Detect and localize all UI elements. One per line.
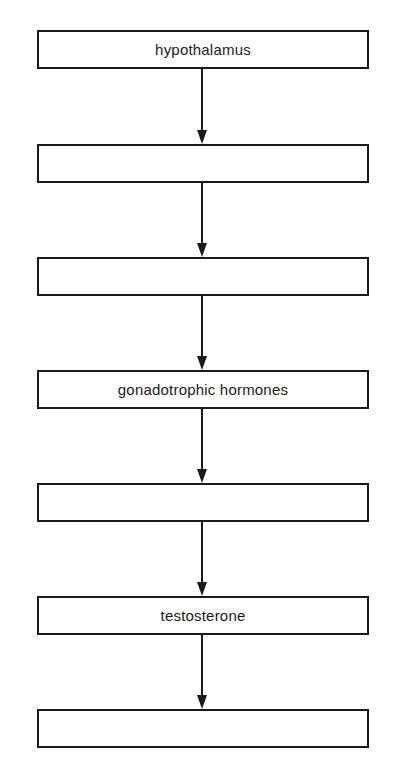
arrow-down-icon xyxy=(197,469,207,483)
flow-box-testosterone: testosterone xyxy=(37,596,369,635)
arrow-down-icon xyxy=(197,695,207,709)
arrow-down-icon xyxy=(197,582,207,596)
box-label: hypothalamus xyxy=(155,41,251,58)
arrow-down-icon xyxy=(197,130,207,144)
flow-box-blank-2 xyxy=(37,257,369,296)
arrow-shaft-3 xyxy=(201,296,203,357)
box-label: testosterone xyxy=(161,607,246,624)
box-label: gonadotrophic hormones xyxy=(118,381,288,398)
flow-box-blank-4 xyxy=(37,709,369,748)
arrow-shaft-6 xyxy=(201,635,203,696)
arrow-down-icon xyxy=(197,243,207,257)
arrow-shaft-4 xyxy=(201,409,203,470)
flow-box-hypothalamus: hypothalamus xyxy=(37,30,369,69)
arrow-shaft-5 xyxy=(201,522,203,583)
flow-box-blank-1 xyxy=(37,144,369,183)
flow-box-blank-3 xyxy=(37,483,369,522)
arrow-shaft-2 xyxy=(201,183,203,244)
flow-box-gonadotrophic-hormones: gonadotrophic hormones xyxy=(37,370,369,409)
arrow-down-icon xyxy=(197,356,207,370)
arrow-shaft-1 xyxy=(201,69,203,131)
